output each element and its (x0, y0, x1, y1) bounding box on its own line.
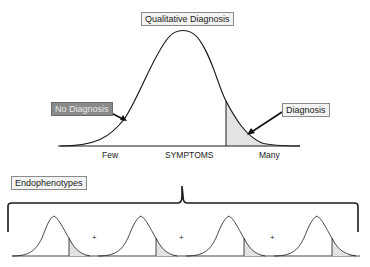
small-curve-2 (98, 216, 177, 256)
diagnosis-label: Diagnosis (282, 103, 330, 117)
plus-separator-1: + (92, 233, 97, 242)
small-curve-4 (274, 216, 356, 256)
small-curve-1 (12, 216, 90, 256)
diagnosis-arrow (250, 112, 282, 133)
axis-left-end-label: Few (102, 150, 118, 160)
main-distribution (58, 31, 300, 147)
plus-separator-2: + (179, 233, 184, 242)
qualitative-diagnosis-label: Qualitative Diagnosis (141, 12, 234, 26)
diagnosis-tail-shading (226, 101, 268, 146)
axis-right-end-label: Many (259, 150, 280, 160)
bell-curve (60, 31, 300, 147)
small-curve-3 (186, 216, 265, 256)
plus-separator-3: + (270, 233, 275, 242)
axis-title: SYMPTOMS (165, 150, 214, 160)
arrows (107, 111, 282, 135)
diagram-canvas (0, 0, 370, 267)
endophenotypes-label: Endophenotypes (11, 176, 87, 190)
no-diagnosis-label: No Diagnosis (51, 102, 113, 116)
diagnosis-arrowhead (247, 128, 255, 135)
endophenotype-curves (12, 216, 360, 256)
grouping-brace (8, 186, 358, 232)
